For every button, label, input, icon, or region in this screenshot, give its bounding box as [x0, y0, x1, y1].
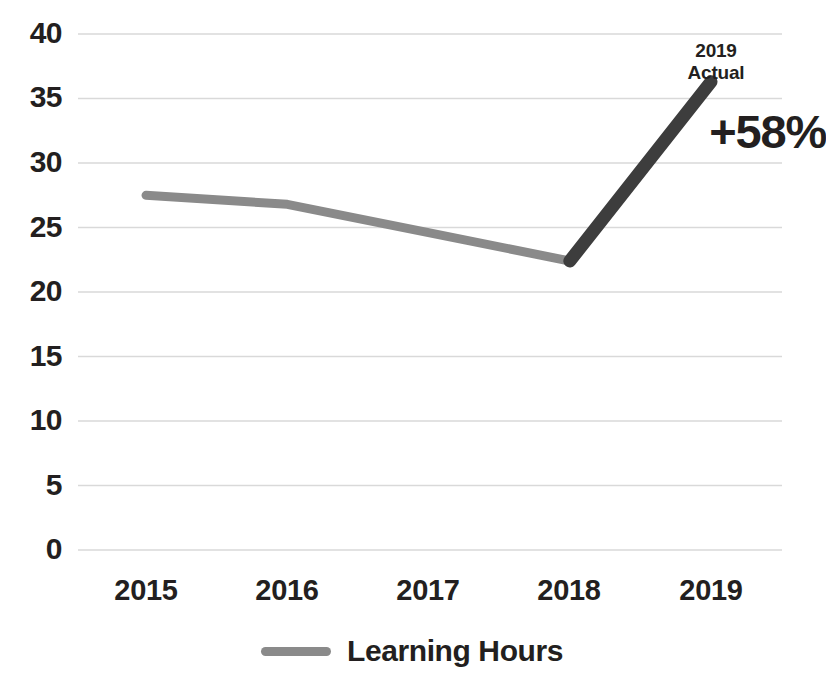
ytick-label-0: 0	[6, 534, 62, 564]
xtick-label-2015: 2015	[114, 576, 177, 605]
legend-swatch-learning-hours	[261, 647, 331, 656]
ytick-label-40: 40	[6, 18, 62, 48]
ytick-label-10: 10	[6, 405, 62, 435]
ytick-label-35: 35	[6, 82, 62, 112]
ytick-label-5: 5	[6, 470, 62, 500]
series-line-highlight	[570, 82, 711, 261]
chart-legend: Learning Hours	[0, 636, 824, 666]
ytick-label-15: 15	[6, 341, 62, 371]
xtick-label-2017: 2017	[396, 576, 459, 605]
annotation-percent-change: +58%	[709, 108, 826, 155]
annotation-line-2: Actual	[616, 62, 816, 84]
xtick-label-2018: 2018	[537, 576, 600, 605]
annotation-2019-actual: 2019 Actual	[616, 40, 816, 85]
annotation-line-1: 2019	[616, 40, 816, 62]
ytick-label-20: 20	[6, 276, 62, 306]
ytick-label-25: 25	[6, 212, 62, 242]
xtick-label-2019: 2019	[679, 576, 742, 605]
legend-label-learning-hours: Learning Hours	[347, 636, 563, 666]
gridlines	[78, 34, 782, 550]
series-learning-hours	[146, 82, 711, 261]
xtick-label-2016: 2016	[255, 576, 318, 605]
ytick-label-30: 30	[6, 147, 62, 177]
